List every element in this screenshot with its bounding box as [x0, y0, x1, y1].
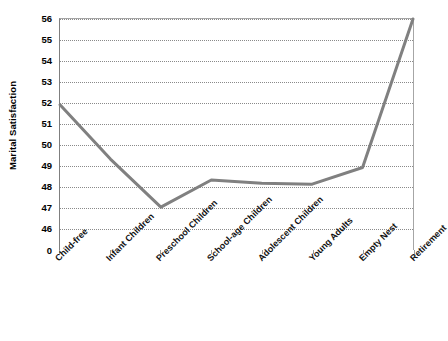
series-line-marital-satisfaction	[60, 19, 413, 250]
y-tick-label-48: 48	[41, 181, 52, 192]
y-tick-label-56: 56	[41, 13, 52, 24]
y-tick-label-47: 47	[41, 202, 52, 213]
x-axis-category-labels: Child-freeInfant ChildrenPreschool Child…	[0, 256, 430, 341]
x-axis-label-retirement: Retirement	[408, 223, 448, 263]
y-tick-label-53: 53	[41, 76, 52, 87]
y-axis-title-text: Marital Satisfaction	[8, 80, 19, 169]
y-tick-label-55: 55	[41, 34, 52, 45]
y-tick-label-54: 54	[41, 55, 52, 66]
y-tick-label-50: 50	[41, 139, 52, 150]
y-tick-label-52: 52	[41, 97, 52, 108]
y-tick-label-0: 0	[47, 245, 52, 256]
y-tick-label-46: 46	[41, 223, 52, 234]
y-tick-label-51: 51	[41, 118, 52, 129]
y-axis-title: Marital Satisfaction	[0, 0, 26, 250]
y-tick-label-49: 49	[41, 160, 52, 171]
y-axis-tick-labels: 56555453525150494847460	[26, 0, 56, 260]
plot-area	[59, 18, 414, 250]
